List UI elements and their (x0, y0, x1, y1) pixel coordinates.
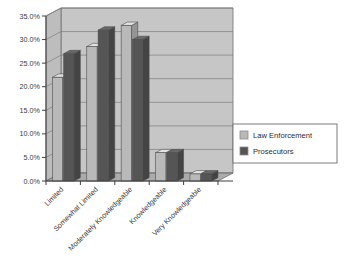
bar-prosecutors (64, 50, 81, 181)
bar-prosecutors (133, 36, 150, 181)
bar-front-face (156, 153, 166, 181)
y-axis (42, 16, 46, 181)
y-tick-label: 25.0% (20, 59, 41, 68)
x-tick-label: Limited (43, 185, 66, 208)
bar-front-face (201, 174, 211, 181)
bar-front-face (133, 40, 143, 181)
legend-swatch-law-enforcement (240, 131, 248, 139)
bar-side-face (177, 149, 183, 181)
bar-front-face (87, 47, 97, 181)
y-tick-label: 0.0% (24, 177, 41, 186)
y-tick-label: 30.0% (20, 35, 41, 44)
bar-side-face (143, 36, 149, 181)
y-tick-label: 35.0% (20, 12, 41, 21)
bar-chart: 35.0% 30.0% 25.0% 20.0% 15.0% 10.0% 5.0%… (0, 0, 345, 273)
bar-prosecutors (167, 149, 184, 181)
y-tick-label: 10.0% (20, 129, 41, 138)
bar-side-face (108, 27, 114, 181)
y-tick-label: 5.0% (24, 153, 41, 162)
legend: Law Enforcement Prosecutors (233, 124, 337, 163)
legend-swatch-prosecutors (240, 147, 248, 155)
bar-front-face (190, 174, 200, 181)
legend-label-law-enforcement: Law Enforcement (253, 131, 313, 140)
bar-front-face (52, 77, 62, 181)
x-axis-ticks (46, 181, 218, 185)
y-tick-label: 20.0% (20, 82, 41, 91)
x-tick-labels: LimitedSomewhat LimitedModerately Knowle… (43, 185, 203, 253)
bar-front-face (98, 30, 108, 181)
bar-front-face (167, 153, 177, 181)
bar-front-face (121, 25, 131, 181)
legend-label-prosecutors: Prosecutors (253, 147, 294, 156)
chart-container: 35.0% 30.0% 25.0% 20.0% 15.0% 10.0% 5.0%… (0, 0, 345, 273)
y-tick-label: 15.0% (20, 106, 41, 115)
bar-front-face (64, 54, 74, 181)
x-tick-label: Moderately Knowledgeable (66, 185, 134, 253)
bar-prosecutors (98, 27, 115, 181)
y-tick-labels: 35.0% 30.0% 25.0% 20.0% 15.0% 10.0% 5.0%… (20, 12, 41, 186)
bar-side-face (74, 50, 80, 181)
